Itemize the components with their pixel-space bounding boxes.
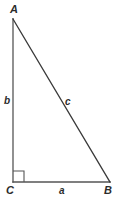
vertex-label-a: A bbox=[10, 4, 18, 15]
vertex-label-c: C bbox=[6, 185, 14, 196]
triangle-drawing bbox=[0, 0, 119, 206]
triangle-figure: A C B a b c bbox=[0, 0, 119, 206]
side-label-b: b bbox=[4, 96, 10, 106]
side-label-a: a bbox=[59, 186, 65, 196]
vertex-label-b: B bbox=[104, 185, 112, 196]
figure-background bbox=[0, 0, 119, 206]
side-label-c: c bbox=[65, 97, 71, 107]
